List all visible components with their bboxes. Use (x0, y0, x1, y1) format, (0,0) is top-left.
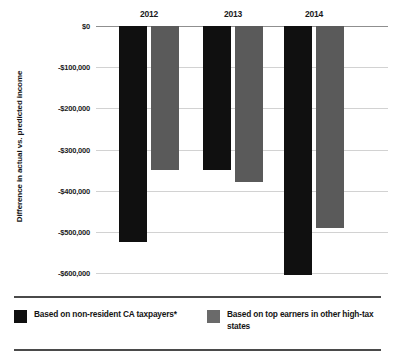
y-axis-tick-label: -$500,000 (58, 227, 90, 236)
y-axis-tick-label: -$200,000 (58, 104, 90, 113)
x-axis-category-label: 2014 (305, 9, 323, 19)
bar-2013-series-1[interactable] (235, 26, 263, 182)
y-axis-tick-label: -$600,000 (58, 269, 90, 278)
y-axis-tick-label: -$300,000 (58, 145, 90, 154)
legend-item-label: Based on non-resident CA taxpayers* (34, 309, 177, 321)
y-axis-title: Difference in actual vs. predicted incom… (15, 62, 24, 232)
bar-2012-series-0[interactable] (119, 26, 147, 242)
chart-figure: Difference in actual vs. predicted incom… (0, 0, 393, 354)
legend-item-top-earners-other-states[interactable]: Based on top earners in other high-tax s… (207, 309, 384, 332)
gridline (96, 273, 388, 274)
y-axis-tick-label: -$400,000 (58, 186, 90, 195)
plot-area: $0-$100,000-$200,000-$300,000-$400,000-$… (96, 26, 388, 273)
bar-2014-series-1[interactable] (316, 26, 344, 228)
y-axis-tick-label: -$100,000 (58, 63, 90, 72)
gray-swatch-icon (207, 310, 220, 323)
y-axis-tick-label: $0 (82, 22, 90, 31)
bar-2013-series-0[interactable] (203, 26, 231, 170)
legend-item-non-resident-ca-taxpayers[interactable]: Based on non-resident CA taxpayers* (14, 309, 177, 323)
bar-2014-series-0[interactable] (284, 26, 312, 275)
legend-divider-bottom (14, 349, 381, 351)
black-swatch-icon (14, 310, 27, 323)
legend-item-label: Based on top earners in other high-tax s… (227, 309, 384, 332)
x-axis-category-label: 2013 (224, 9, 242, 19)
bar-2012-series-1[interactable] (151, 26, 179, 170)
chart-legend: Based on non-resident CA taxpayers* Base… (14, 309, 384, 345)
x-axis-category-label: 2012 (140, 9, 158, 19)
legend-divider-top (14, 296, 381, 298)
